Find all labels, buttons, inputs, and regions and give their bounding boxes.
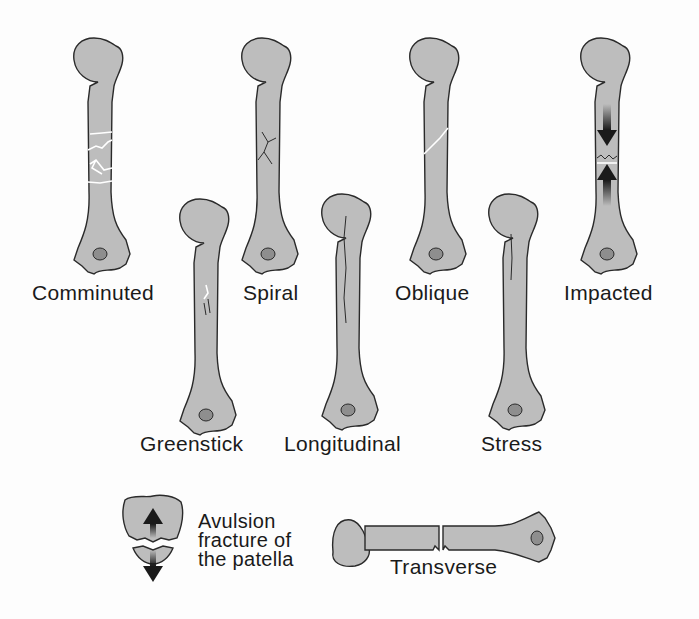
bone-oblique bbox=[410, 38, 466, 274]
label-impacted: Impacted bbox=[564, 281, 653, 305]
bone-impacted bbox=[581, 38, 637, 274]
bone-longitudinal bbox=[322, 194, 378, 430]
label-oblique: Oblique bbox=[395, 281, 469, 305]
diagram-canvas bbox=[0, 0, 699, 619]
patella-avulsion bbox=[123, 495, 183, 582]
label-spiral: Spiral bbox=[243, 281, 299, 305]
label-transverse: Transverse bbox=[390, 555, 497, 579]
bone-stress bbox=[489, 194, 545, 430]
fracture-types-diagram: Comminuted Spiral Oblique Impacted Green… bbox=[0, 0, 699, 619]
label-comminuted: Comminuted bbox=[32, 281, 154, 305]
label-avulsion: Avulsion fracture of the patella bbox=[198, 512, 294, 569]
bone-comminuted bbox=[74, 38, 130, 274]
bone-spiral bbox=[242, 38, 298, 274]
label-greenstick: Greenstick bbox=[140, 432, 243, 456]
label-avulsion-line-3: the patella bbox=[198, 550, 294, 569]
bone-greenstick bbox=[180, 199, 236, 435]
label-longitudinal: Longitudinal bbox=[284, 432, 401, 456]
arrow-down-icon bbox=[143, 566, 163, 582]
arrow-down-icon bbox=[603, 104, 611, 130]
label-stress: Stress bbox=[481, 432, 542, 456]
